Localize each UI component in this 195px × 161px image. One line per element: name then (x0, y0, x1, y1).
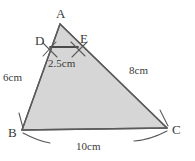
vertex-label-a: A (56, 7, 65, 20)
point-label-e: E (80, 32, 88, 45)
measure-label-de: 2.5cm (48, 58, 75, 69)
geometry-figure: A D E B C 2.5cm 6cm 8cm 10cm (0, 0, 195, 161)
vertex-label-c: C (172, 123, 181, 136)
point-label-d: D (35, 34, 44, 47)
measure-label-ac: 8cm (129, 65, 148, 76)
vertex-label-b: B (8, 126, 17, 139)
triangle-diagram-svg (0, 0, 195, 161)
measure-label-bc: 10cm (76, 141, 100, 152)
measure-label-ab: 6cm (3, 72, 22, 83)
